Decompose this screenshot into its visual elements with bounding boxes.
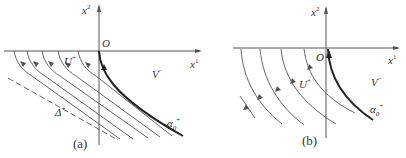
caption-a: (a) (73, 136, 87, 152)
alpha0-plus-label: α0+ (370, 103, 383, 118)
region-u-plus-label: U+ (299, 78, 311, 90)
diagram-panel-a: x2 O x1 U+ V− α0+ Δ+ (a) (0, 0, 203, 158)
x1-axis-arrow-icon (393, 46, 400, 50)
origin-label: O (316, 52, 324, 63)
diagram-panel-b: x2 O x1 U+ V− α0+ (b) (203, 0, 406, 158)
trajectories (240, 49, 355, 125)
region-v-minus-label: V− (371, 76, 382, 88)
phase-portrait-a (0, 0, 203, 158)
alpha0-curve (328, 49, 373, 120)
caption-b: (b) (302, 133, 317, 149)
region-u-plus-label: U+ (64, 55, 76, 67)
x1-axis-arrow-icon (195, 49, 202, 53)
delta-plus-label: Δ+ (55, 106, 65, 118)
x2-axis-arrow-icon (324, 6, 328, 14)
x2-axis-arrow-icon (97, 4, 101, 12)
x1-axis-label: x1 (388, 54, 396, 66)
x2-axis-label: x2 (311, 6, 319, 18)
alpha0-arrow-icon (326, 50, 332, 58)
region-v-minus-label: V− (152, 68, 163, 80)
origin-label: O (102, 38, 110, 49)
alpha0-plus-label: α0+ (167, 117, 180, 132)
x2-axis-label: x2 (82, 4, 90, 16)
x1-axis-label: x1 (190, 58, 198, 70)
